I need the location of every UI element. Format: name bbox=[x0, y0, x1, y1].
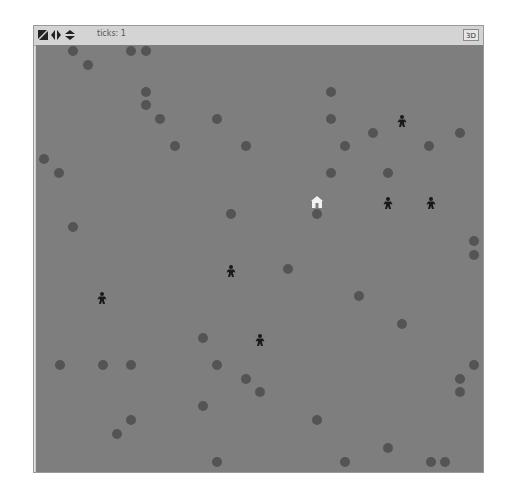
person-icon bbox=[383, 197, 393, 209]
patch-dot bbox=[424, 141, 434, 151]
patch-dot bbox=[340, 141, 350, 151]
patch-dot bbox=[198, 401, 208, 411]
horizontal-wrap-icon[interactable] bbox=[51, 30, 61, 40]
patch-dot bbox=[383, 443, 393, 453]
patch-dot bbox=[283, 264, 293, 274]
view-3d-button[interactable]: 3D bbox=[463, 29, 479, 41]
patch-dot bbox=[68, 46, 78, 56]
patch-dot bbox=[83, 60, 93, 70]
vertical-wrap-icon[interactable] bbox=[65, 30, 75, 40]
patch-dot bbox=[126, 360, 136, 370]
patch-dot bbox=[469, 360, 479, 370]
house-icon bbox=[311, 196, 323, 208]
patch-dot bbox=[354, 291, 364, 301]
patch-dot bbox=[469, 236, 479, 246]
patch-dot bbox=[141, 46, 151, 56]
patch-dot bbox=[98, 360, 108, 370]
patch-dot bbox=[226, 209, 236, 219]
ticks-counter: ticks: 1 bbox=[97, 29, 126, 38]
patch-dot bbox=[55, 360, 65, 370]
patch-dot bbox=[255, 387, 265, 397]
patch-dot bbox=[54, 168, 64, 178]
patch-dot bbox=[397, 319, 407, 329]
person-icon bbox=[397, 115, 407, 127]
patch-dot bbox=[212, 457, 222, 467]
patch-dot bbox=[312, 209, 322, 219]
patch-dot bbox=[141, 100, 151, 110]
patch-dot bbox=[212, 360, 222, 370]
patch-dot bbox=[440, 457, 450, 467]
view-toolbar: ticks: 1 3D bbox=[34, 26, 483, 46]
patch-dot bbox=[455, 128, 465, 138]
patch-dot bbox=[455, 374, 465, 384]
patch-dot bbox=[383, 168, 393, 178]
world-view[interactable] bbox=[36, 45, 483, 472]
patch-dot bbox=[198, 333, 208, 343]
person-icon bbox=[426, 197, 436, 209]
patch-dot bbox=[469, 250, 479, 260]
patch-dot bbox=[39, 154, 49, 164]
patch-dot bbox=[312, 415, 322, 425]
patch-dot bbox=[141, 87, 151, 97]
patch-dot bbox=[368, 128, 378, 138]
person-icon bbox=[226, 265, 236, 277]
person-icon bbox=[255, 334, 265, 346]
patch-dot bbox=[326, 114, 336, 124]
patch-dot bbox=[170, 141, 180, 151]
patch-dot bbox=[326, 87, 336, 97]
patch-dot bbox=[340, 457, 350, 467]
patch-dot bbox=[68, 222, 78, 232]
edit-shape-icon[interactable] bbox=[38, 30, 48, 40]
patch-dot bbox=[455, 387, 465, 397]
patch-dot bbox=[326, 168, 336, 178]
patch-dot bbox=[241, 374, 251, 384]
patch-dot bbox=[241, 141, 251, 151]
patch-dot bbox=[112, 429, 122, 439]
patch-dot bbox=[426, 457, 436, 467]
netlogo-view-frame: ticks: 1 3D bbox=[33, 25, 484, 473]
person-icon bbox=[97, 292, 107, 304]
patch-dot bbox=[126, 415, 136, 425]
patch-dot bbox=[212, 114, 222, 124]
patch-dot bbox=[155, 114, 165, 124]
patch-dot bbox=[126, 46, 136, 56]
